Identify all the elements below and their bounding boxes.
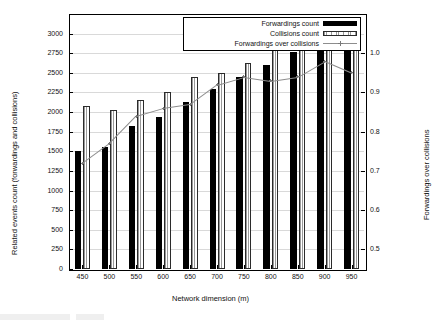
y-axis-right-title: Forwardings over collisions — [422, 130, 431, 220]
x-tick-label: 650 — [184, 273, 196, 280]
y-tick-left — [69, 191, 73, 192]
y-tick-label-right: 0.6 — [370, 206, 380, 213]
y-tick-right — [361, 132, 365, 133]
ratio-point — [323, 60, 326, 63]
ratio-point — [296, 75, 299, 78]
bar-forwardings — [317, 37, 324, 269]
y-tick-label-left: 1000 — [47, 187, 63, 194]
x-axis-title: Network dimension (m) — [172, 294, 249, 303]
x-tick-label: 700 — [211, 273, 223, 280]
bar-forwardings — [263, 65, 270, 269]
ratio-point — [108, 142, 111, 145]
y-tick-left — [69, 230, 73, 231]
ratio-point — [350, 71, 353, 74]
legend: Forwardings countCollisions countForward… — [183, 17, 361, 51]
footer-strip-right — [76, 314, 104, 320]
bar-collisions — [272, 49, 279, 269]
x-tick-label: 450 — [77, 273, 89, 280]
x-tick-label: 500 — [104, 273, 116, 280]
y-tick-label-left: 500 — [51, 226, 63, 233]
legend-entry: Collisions count — [184, 28, 360, 38]
y-tick-left — [69, 73, 73, 74]
bar-forwardings — [183, 102, 190, 269]
bar-collisions — [353, 34, 360, 269]
bar-collisions — [164, 92, 171, 269]
y-tick-label-left: 3000 — [47, 30, 63, 37]
y-tick-left — [69, 249, 73, 250]
y-tick-right — [361, 249, 365, 250]
legend-label: Collisions count — [270, 30, 319, 37]
y-tick-label-left: 250 — [51, 245, 63, 252]
y-tick-left — [69, 132, 73, 133]
x-tick-label: 800 — [265, 273, 277, 280]
bar-collisions — [83, 106, 90, 269]
chart-screenshot: 0250500750100012501500175020002250250027… — [0, 0, 432, 324]
y-tick-right — [361, 92, 365, 93]
footer-strip-left — [0, 314, 70, 320]
bar-forwardings — [102, 147, 109, 269]
y-tick-left — [69, 92, 73, 93]
legend-label: Forwardings over collisions — [235, 40, 319, 47]
bar-collisions — [191, 77, 198, 269]
bar-forwardings — [210, 89, 217, 269]
y-tick-label-right: 0.5 — [370, 245, 380, 252]
y-tick-left — [69, 112, 73, 113]
legend-entry: Forwardings count — [184, 18, 360, 28]
y-tick-label-left: 1750 — [47, 128, 63, 135]
bar-forwardings — [75, 151, 82, 269]
bar-forwardings — [290, 52, 297, 269]
bar-forwardings — [344, 46, 351, 269]
legend-key-ratio — [323, 39, 357, 47]
y-tick-left — [69, 34, 73, 35]
y-tick-left — [69, 269, 73, 270]
ratio-point — [81, 162, 84, 165]
y-tick-label-right: 1.0 — [370, 49, 380, 56]
y-tick-label-left: 2250 — [47, 88, 63, 95]
legend-label: Forwardings count — [261, 20, 319, 27]
y-tick-label-left: 1250 — [47, 167, 63, 174]
y-tick-label-right: 0.7 — [370, 167, 380, 174]
y-tick-label-left: 750 — [51, 206, 63, 213]
y-tick-label-left: 1500 — [47, 147, 63, 154]
ratio-point — [135, 115, 138, 118]
legend-key-collisions — [323, 29, 357, 37]
ratio-point — [242, 75, 245, 78]
bar-collisions — [326, 31, 333, 269]
x-tick-label: 900 — [319, 273, 331, 280]
y-tick-label-right: 0.9 — [370, 88, 380, 95]
bar-forwardings — [129, 126, 136, 269]
y-tick-right — [361, 210, 365, 211]
ratio-point — [216, 83, 219, 86]
y-tick-label-right: 0.8 — [370, 128, 380, 135]
bar-forwardings — [236, 77, 243, 269]
bar-collisions — [110, 110, 117, 269]
legend-key-forwardings — [323, 19, 357, 27]
x-tick-label: 550 — [130, 273, 142, 280]
x-tick-label: 600 — [157, 273, 169, 280]
y-tick-left — [69, 171, 73, 172]
x-tick-label: 850 — [292, 273, 304, 280]
y-tick-right — [361, 53, 365, 54]
y-tick-label-left: 0 — [59, 265, 63, 272]
y-tick-left — [69, 210, 73, 211]
y-tick-left — [69, 53, 73, 54]
y-tick-left — [69, 151, 73, 152]
bar-collisions — [218, 73, 225, 269]
y-tick-label-left: 2750 — [47, 49, 63, 56]
y-tick-label-left: 2500 — [47, 69, 63, 76]
ratio-point — [269, 79, 272, 82]
ratio-point — [189, 103, 192, 106]
bar-collisions — [137, 100, 144, 269]
y-tick-right — [361, 171, 365, 172]
bar-collisions — [245, 63, 252, 269]
x-tick-label: 750 — [238, 273, 250, 280]
bar-forwardings — [156, 117, 163, 269]
x-tick-label: 950 — [346, 273, 358, 280]
ratio-point — [162, 107, 165, 110]
y-tick-label-left: 2000 — [47, 108, 63, 115]
y-axis-left-title: Related events count (forwardings and co… — [10, 92, 19, 255]
legend-entry: Forwardings over collisions — [184, 38, 360, 48]
